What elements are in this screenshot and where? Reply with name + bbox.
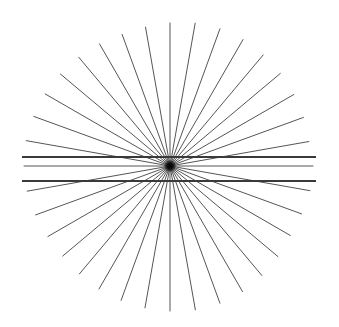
illusion-canvas <box>0 0 339 327</box>
center-convergence-blob <box>163 159 177 173</box>
hering-illusion-figure <box>0 0 339 327</box>
center-blob-group <box>163 159 177 173</box>
